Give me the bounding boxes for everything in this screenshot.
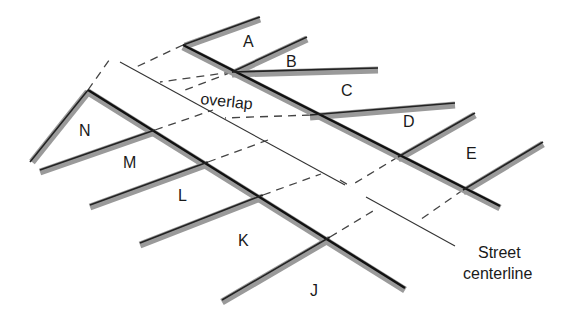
parcel-label-b: B xyxy=(286,53,297,70)
centerline-segment-1 xyxy=(120,62,345,185)
parcel-label-n: N xyxy=(79,122,91,139)
street-centerline-label-line1: Street xyxy=(478,244,521,261)
projection-de xyxy=(350,157,398,186)
parcel-label-m: M xyxy=(123,154,136,171)
projection-a xyxy=(134,45,183,68)
projection-ml xyxy=(208,140,268,162)
parcel-label-j: J xyxy=(310,282,318,299)
projection-e xyxy=(417,190,463,222)
projection-ab-2 xyxy=(180,72,232,92)
projection-lk xyxy=(263,174,321,195)
parcel-label-a: A xyxy=(243,33,254,50)
street-centerline-label-line2: centerline xyxy=(463,265,532,282)
overlap-label: overlap xyxy=(200,90,254,112)
parcel-label-k: K xyxy=(238,232,249,249)
lot-line-m-l xyxy=(90,162,208,205)
projection-nm xyxy=(155,110,213,130)
centerline-segment-2 xyxy=(366,197,455,246)
parcel-label-c: C xyxy=(341,82,353,99)
street-centerline-diagram: A B C D E N M L K J overlap Street cente… xyxy=(0,0,579,316)
parcel-label-e: E xyxy=(466,145,477,162)
parcel-label-l: L xyxy=(178,187,187,204)
projection-cd xyxy=(225,115,310,118)
projection-kj xyxy=(330,208,378,237)
projection-ab-1 xyxy=(160,72,232,82)
projection-n-extension xyxy=(88,56,112,90)
parcel-label-d: D xyxy=(403,113,415,130)
